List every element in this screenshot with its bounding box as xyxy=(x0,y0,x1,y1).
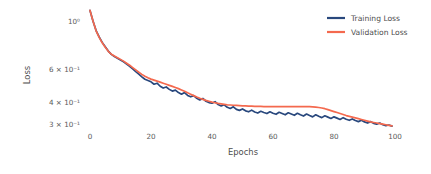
x-tick-label: 100 xyxy=(388,132,402,141)
chart-canvas: 0 20 40 60 80 100 10⁰ 6 × 10⁻¹ 4 × 10⁻¹ … xyxy=(0,0,431,174)
y-tick-label: 6 × 10⁻¹ xyxy=(49,65,80,74)
loss-curve-figure: 0 20 40 60 80 100 10⁰ 6 × 10⁻¹ 4 × 10⁻¹ … xyxy=(0,0,431,174)
legend-label-validation-loss: Validation Loss xyxy=(351,28,408,37)
y-tick-label: 3 × 10⁻¹ xyxy=(49,120,80,129)
y-axis-title: Loss xyxy=(22,66,32,84)
series-line-training-loss xyxy=(90,10,392,126)
x-axis-title: Epochs xyxy=(228,147,258,157)
legend-label-training-loss: Training Loss xyxy=(350,14,400,23)
y-tick-labels: 10⁰ 6 × 10⁻¹ 4 × 10⁻¹ 3 × 10⁻¹ xyxy=(49,17,80,129)
y-tick-label: 10⁰ xyxy=(68,17,80,26)
x-tick-label: 60 xyxy=(268,132,278,141)
x-tick-labels: 0 20 40 60 80 100 xyxy=(88,132,403,141)
series-line-validation-loss xyxy=(90,10,392,125)
y-tick-label: 4 × 10⁻¹ xyxy=(49,98,80,107)
x-tick-label: 80 xyxy=(329,132,339,141)
x-tick-label: 40 xyxy=(207,132,217,141)
legend: Training Loss Validation Loss xyxy=(327,14,408,37)
x-tick-label: 0 xyxy=(88,132,93,141)
x-tick-label: 20 xyxy=(146,132,156,141)
